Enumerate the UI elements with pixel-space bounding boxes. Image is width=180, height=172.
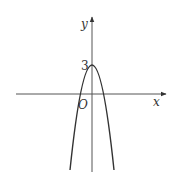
y-axis-label: y — [80, 17, 88, 31]
origin-label: O — [78, 98, 88, 112]
x-axis-label: x — [153, 95, 160, 109]
parabola-graph: y x O 3 — [0, 0, 180, 172]
vertex-value-label: 3 — [81, 59, 89, 73]
